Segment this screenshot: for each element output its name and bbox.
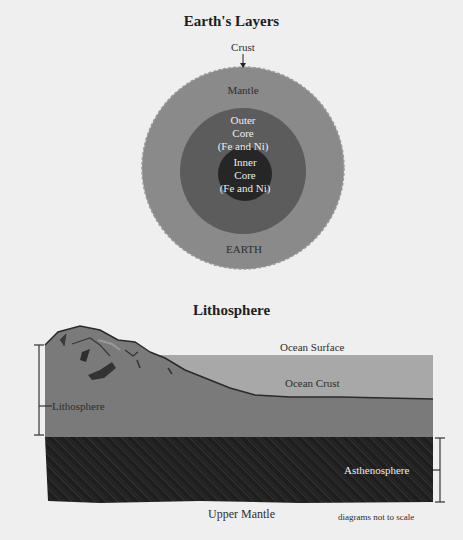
outer-core-label: Outer Core (Fe and Ni) bbox=[218, 114, 269, 153]
crust-label: Crust bbox=[231, 41, 255, 53]
asthenosphere-bracket bbox=[433, 438, 445, 502]
lithosphere-diagram bbox=[34, 326, 445, 503]
diagram-graphics bbox=[0, 0, 463, 540]
footnote: diagrams not to scale bbox=[338, 512, 414, 522]
ocean-surface-label: Ocean Surface bbox=[280, 341, 344, 353]
asthenosphere-label: Asthenosphere bbox=[344, 464, 409, 476]
ocean-crust-label: Ocean Crust bbox=[285, 377, 340, 389]
inner-core-label: Inner Core (Fe and Ni) bbox=[220, 156, 271, 195]
lithosphere-title: Lithosphere bbox=[0, 302, 463, 319]
lithosphere-label: Lithosphere bbox=[52, 400, 105, 412]
earth-label: EARTH bbox=[226, 243, 262, 255]
mantle-label: Mantle bbox=[227, 84, 258, 96]
upper-mantle-label: Upper Mantle bbox=[208, 507, 275, 522]
